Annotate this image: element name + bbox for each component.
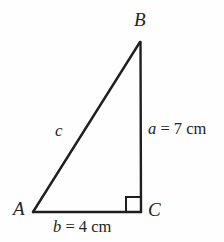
- side-a-value: = 7 cm: [156, 119, 206, 138]
- vertex-label-a: A: [13, 199, 25, 218]
- side-label-c: c: [55, 122, 63, 139]
- side-label-b-measure: b = 4 cm: [53, 219, 111, 236]
- geometry-figure: B A C c a = 7 cm b = 4 cm: [0, 0, 224, 242]
- right-angle-icon: [126, 197, 141, 212]
- side-a-vertical: [141, 42, 142, 212]
- side-c-hypotenuse: [33, 42, 140, 212]
- vertex-label-b: B: [134, 10, 146, 29]
- side-label-a-measure: a = 7 cm: [148, 121, 206, 138]
- vertex-label-c: C: [148, 200, 161, 219]
- side-a-variable: a: [148, 119, 156, 138]
- side-b-value: = 4 cm: [61, 217, 111, 236]
- side-b-variable: b: [53, 217, 61, 236]
